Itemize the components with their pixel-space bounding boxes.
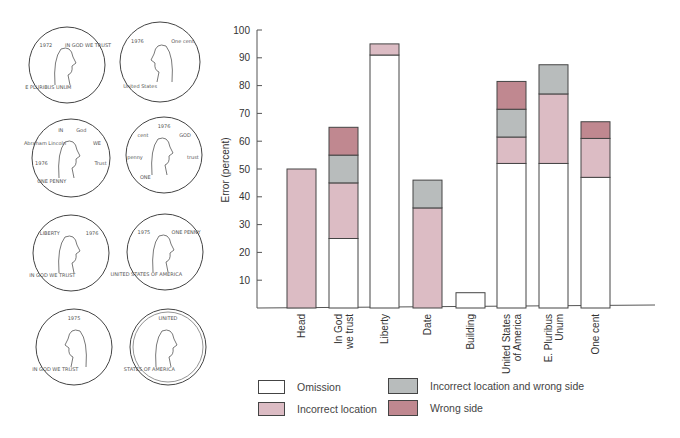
bar-segment [497,81,526,109]
bar-segment [539,163,568,308]
bar-in-god-we-trust [329,127,358,308]
stacked-bar-chart: Error (percent) 102030405060708090100 He… [0,0,680,438]
x-tick-label: One cent [590,314,601,355]
x-tick-label: Unum [554,314,565,341]
legend-item-incorrect-location: Incorrect location [258,402,377,416]
bar-building [456,293,485,308]
y-tick-label: 10 [239,275,251,286]
legend-swatch [388,378,418,394]
y-tick-label: 60 [239,136,251,147]
legend-item-incorrect-location-wrong-side: Incorrect location and wrong side [388,378,584,394]
bar-date [413,180,442,308]
bar-segment [413,208,442,308]
bar-segment [497,163,526,308]
bar-segment [539,65,568,94]
legend-label: Omission [297,381,341,393]
bar-e-pluribus-unum [539,65,568,308]
x-tick-label: we trust [344,314,355,350]
x-tick-label: Liberty [379,314,390,344]
y-tick-label: 70 [239,108,251,119]
legend-label: Wrong side [430,402,483,414]
x-tick-label: of America [512,314,523,362]
bar-segment [329,183,358,239]
y-tick-label: 30 [239,219,251,230]
bar-segment [539,94,568,164]
bar-segment [581,122,610,139]
bar-segment [370,44,399,55]
bar-liberty [370,44,399,308]
bars [287,44,610,308]
bar-segment [413,180,442,208]
bar-united-states-of-america [497,81,526,308]
y-tick-label: 100 [233,25,250,36]
y-tick-label: 80 [239,80,251,91]
bar-segment [581,177,610,308]
bar-segment [497,137,526,163]
legend: Omission Incorrect location Incorrect lo… [258,378,658,428]
legend-item-wrong-side: Wrong side [388,400,483,416]
y-tick-label: 20 [239,247,251,258]
y-tick-label: 90 [239,52,251,63]
bar-segment [497,109,526,137]
x-axis-labels: HeadIn Godwe trustLibertyDateBuildingUni… [296,314,601,374]
bar-segment [329,155,358,183]
x-tick-label: United States [501,314,512,374]
legend-swatch [388,400,418,416]
legend-item-omission: Omission [258,380,341,394]
bar-segment [287,169,316,308]
x-tick-label: Building [465,314,476,350]
bar-segment [456,293,485,308]
legend-swatch [258,380,285,394]
x-tick-label: In God [333,314,344,344]
legend-label: Incorrect location [297,403,377,415]
x-tick-label: E. Pluribus [543,314,554,362]
bar-head [287,169,316,308]
bar-segment [370,55,399,308]
bar-segment [581,138,610,177]
y-axis-label: Error (percent) [220,137,231,202]
legend-label: Incorrect location and wrong side [430,380,584,392]
bar-segment [329,127,358,155]
x-tick-label: Head [296,314,307,338]
x-tick-label: Date [422,314,433,336]
bar-segment [329,239,358,309]
legend-swatch [258,402,285,416]
y-tick-label: 50 [239,164,251,175]
y-tick-label: 40 [239,191,251,202]
bar-one-cent [581,122,610,308]
